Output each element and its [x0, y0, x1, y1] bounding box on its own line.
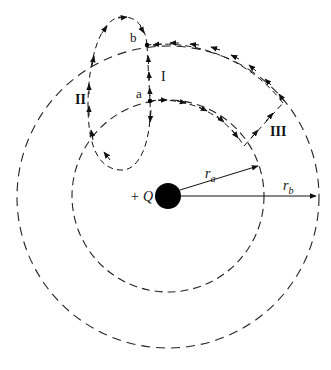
- path-II-label: II: [75, 92, 86, 107]
- charge-Q: [155, 183, 181, 209]
- path-I-label: I: [161, 69, 166, 84]
- path-I: [147, 45, 150, 101]
- point-b: [145, 43, 149, 47]
- point-a: [148, 99, 152, 103]
- charge-label: + Q: [130, 189, 153, 204]
- equipotential-diagram: + Q ra rb: [0, 0, 331, 370]
- path-III: [147, 43, 284, 146]
- radius-a-arrow: [180, 166, 258, 190]
- path-III-label: III: [270, 124, 286, 139]
- point-b-label: b: [130, 30, 137, 45]
- point-a-label: a: [136, 86, 142, 101]
- radius-a-label: ra: [205, 166, 215, 184]
- radius-b-label: rb: [283, 178, 293, 196]
